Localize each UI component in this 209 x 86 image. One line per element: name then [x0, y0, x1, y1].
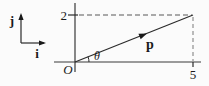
vector-p-label: p — [146, 37, 154, 52]
angle-arc — [88, 57, 89, 62]
origin-label: O — [63, 62, 73, 77]
i-unit-vector-label: i — [35, 46, 39, 61]
j-unit-vector-label: j — [9, 13, 14, 28]
x-tick-label: 5 — [190, 67, 197, 82]
y-tick-label: 2 — [61, 8, 68, 23]
j-arrowhead-icon — [18, 13, 23, 20]
vector-p-line — [75, 15, 193, 62]
vector-diagram: j i 2 5 O p θ — [0, 0, 209, 86]
i-arrowhead-icon — [39, 40, 46, 45]
vector-p: p — [75, 15, 193, 62]
angle-theta-label: θ — [94, 49, 100, 63]
unit-vector-legend: j i — [9, 13, 46, 61]
diagram-canvas: j i 2 5 O p θ — [0, 0, 209, 86]
